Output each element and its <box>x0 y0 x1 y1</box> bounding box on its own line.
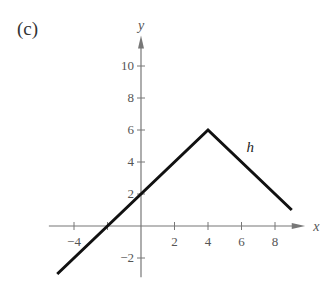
y-tick-label: 8 <box>128 90 135 105</box>
y-tick-label: 6 <box>128 122 135 137</box>
x-tick-label: 6 <box>238 234 245 249</box>
chart: xy−42468−2246810h <box>0 0 328 287</box>
x-tick-label: −4 <box>67 234 81 249</box>
y-tick-label: 2 <box>128 186 135 201</box>
curve-label: h <box>247 139 255 155</box>
y-tick-label: 4 <box>128 154 135 169</box>
x-axis-label: x <box>312 219 320 234</box>
y-tick-label: 10 <box>121 58 134 73</box>
x-tick-label: 2 <box>171 234 178 249</box>
y-tick-label: −2 <box>120 250 134 265</box>
x-tick-label: 8 <box>272 234 279 249</box>
x-axis-arrow-icon <box>292 223 305 229</box>
x-tick-label: 4 <box>205 234 212 249</box>
y-axis-arrow-icon <box>138 36 144 49</box>
y-axis-label: y <box>136 18 145 33</box>
series-line-h <box>57 130 292 274</box>
